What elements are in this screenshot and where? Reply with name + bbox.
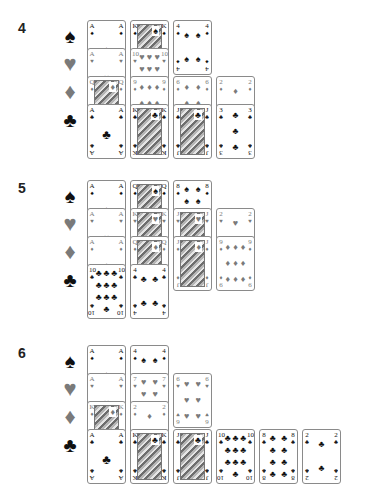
card-index: 4♠ (204, 58, 210, 72)
card-6-of-hearts[interactable]: 6♥6♥6♥6♥♥♥♥♥♥♥ (173, 373, 212, 428)
diamonds-pip-icon: ♦ (146, 83, 154, 92)
diamonds-pip-icon: ♦ (239, 275, 247, 284)
clubs-pip-icon: ♣ (150, 275, 162, 284)
hearts-suit-icon: ♥ (58, 54, 82, 74)
clubs-suit-icon: ♣ (58, 435, 82, 455)
diamonds-pip-icon: ♦ (232, 243, 240, 252)
clubs-pip-icon: ♣ (279, 470, 291, 479)
clubs-pip-icon: ♣ (103, 293, 111, 302)
card-pips: ♦♦♦♦♦♦♦♦♦ (224, 240, 247, 287)
card-k-of-clubs[interactable]: K♣K♣K♣K♣♣ (130, 104, 169, 159)
hearts-pip-icon: ♥ (153, 53, 161, 62)
card-9-of-diamonds[interactable]: 9♦9♦9♦9♦♦♦♦♦♦♦♦♦♦ (216, 236, 255, 291)
clubs-pip-icon: ♣ (103, 269, 111, 278)
card-4-of-spades[interactable]: 4♠4♠4♠4♠♠♠♠♠ (173, 20, 212, 75)
card-8-of-clubs[interactable]: 8♣8♣8♣8♣♣♣♣♣♣♣♣♣ (259, 429, 298, 484)
card-index: 3♣ (247, 107, 253, 121)
clubs-pip-icon: ♣ (95, 293, 103, 302)
spades-pip-icon: ♠ (181, 185, 193, 194)
card-pips: ♣♣ (310, 433, 333, 480)
clubs-pip-icon: ♣ (138, 299, 150, 308)
hearts-suit-icon: ♥ (58, 379, 82, 399)
diamonds-pip-icon: ♦ (193, 83, 205, 92)
card-index: 9♦ (161, 79, 167, 93)
card-4-of-clubs[interactable]: 4♣4♣4♣4♣♣♣♣♣ (130, 264, 169, 319)
card-a-of-clubs[interactable]: A♣A♣A♣A♣♣ (87, 104, 126, 159)
clubs-pip-icon: ♣ (310, 464, 333, 473)
card-10-of-clubs[interactable]: 10♣10♣10♣10♣♣♣♣♣♣♣♣♣♣♣ (216, 429, 255, 484)
card-j-of-clubs[interactable]: J♣J♣J♣J♣♣ (173, 104, 212, 159)
card-pips: ♣♣♣♣♣♣♣♣♣♣ (95, 268, 118, 315)
face-card-portrait: ♣ (137, 433, 162, 480)
clubs-pip-icon: ♣ (279, 434, 291, 443)
diamonds-pip-icon: ♦ (153, 83, 161, 92)
card-index: 2♦ (161, 404, 167, 418)
clubs-pip-icon: ♣ (267, 470, 279, 479)
hearts-pip-icon: ♥ (138, 65, 146, 74)
card-index: A♥ (118, 211, 124, 225)
card-index: 9♦ (247, 274, 253, 288)
diamonds-pip-icon: ♦ (239, 243, 247, 252)
card-index: 10♣ (247, 432, 253, 446)
clubs-pip-icon: ♣ (279, 458, 291, 467)
clubs-pip-icon: ♣ (224, 446, 232, 455)
clubs-pip-icon: ♣ (239, 446, 247, 455)
hearts-pip-icon: ♥ (146, 53, 154, 62)
card-j-of-diamonds[interactable]: J♦J♦J♦J♦♦ (173, 236, 212, 291)
spades-pip-icon: ♠ (150, 356, 162, 365)
card-index: A♣ (89, 467, 95, 481)
card-index: A♣ (118, 432, 124, 446)
card-index: 10♣ (118, 302, 124, 316)
card-index: 4♣ (161, 267, 167, 281)
clubs-pip-icon: ♣ (310, 440, 333, 449)
spades-pip-icon: ♠ (181, 31, 193, 40)
card-10-of-clubs[interactable]: 10♣10♣10♣10♣♣♣♣♣♣♣♣♣♣♣ (87, 264, 126, 319)
card-k-of-clubs[interactable]: K♣K♣K♣K♣♣ (130, 429, 169, 484)
card-index: A♣ (118, 142, 124, 156)
hearts-pip-icon: ♥ (150, 390, 162, 399)
card-index: 10♣ (118, 267, 124, 281)
face-card-portrait: ♣ (180, 433, 205, 480)
clubs-pip-icon: ♣ (224, 143, 247, 152)
clubs-pip-icon: ♣ (232, 470, 240, 479)
card-index: 10♣ (247, 467, 253, 481)
clubs-pip-icon: ♣ (279, 446, 291, 455)
card-index: A♠ (89, 183, 95, 197)
card-index: A♥ (89, 51, 95, 65)
clubs-pip-icon: ♣ (150, 299, 162, 308)
hearts-pip-icon: ♥ (138, 390, 150, 399)
clubs-pip-icon: ♣ (267, 434, 279, 443)
card-j-of-clubs[interactable]: J♣J♣J♣J♣♣ (173, 429, 212, 484)
clubs-pip-icon: ♣ (138, 275, 150, 284)
card-2-of-clubs[interactable]: 2♣2♣2♣2♣♣♣ (302, 429, 341, 484)
spades-pip-icon: ♠ (181, 197, 193, 206)
spades-pip-icon: ♠ (193, 185, 205, 194)
card-index: 3♣ (247, 142, 253, 156)
card-pips: ♣♣♣ (224, 108, 247, 155)
card-a-of-clubs[interactable]: A♣A♣A♣A♣♣ (87, 429, 126, 484)
card-pips: ♠♠♠♠ (181, 24, 204, 71)
clubs-pip-icon: ♣ (232, 446, 240, 455)
card-index: 2♦ (247, 79, 253, 93)
diamonds-pip-icon: ♦ (224, 87, 247, 96)
card-index: A♣ (89, 432, 95, 446)
card-index: A♦ (89, 239, 95, 253)
hearts-pip-icon: ♥ (138, 378, 150, 387)
clubs-suit-icon: ♣ (58, 110, 82, 130)
hearts-pip-icon: ♥ (181, 396, 193, 405)
clubs-pip-icon: ♣ (103, 281, 111, 290)
clubs-pip-icon: ♣ (110, 269, 118, 278)
card-index: A♠ (89, 348, 95, 362)
card-index: A♠ (118, 23, 124, 37)
hearts-pip-icon: ♥ (193, 412, 205, 421)
card-index: 9♦ (247, 239, 253, 253)
diamonds-pip-icon: ♦ (138, 83, 146, 92)
card-index: 10♥ (161, 51, 167, 65)
hearts-pip-icon: ♥ (181, 380, 193, 389)
card-3-of-clubs[interactable]: 3♣3♣3♣3♣♣♣♣ (216, 104, 255, 159)
section-label: 5 (18, 180, 26, 196)
clubs-pip-icon: ♣ (232, 434, 240, 443)
clubs-pip-icon: ♣ (95, 269, 103, 278)
card-index: A♣ (118, 467, 124, 481)
clubs-pip-icon: ♣ (88, 127, 125, 142)
